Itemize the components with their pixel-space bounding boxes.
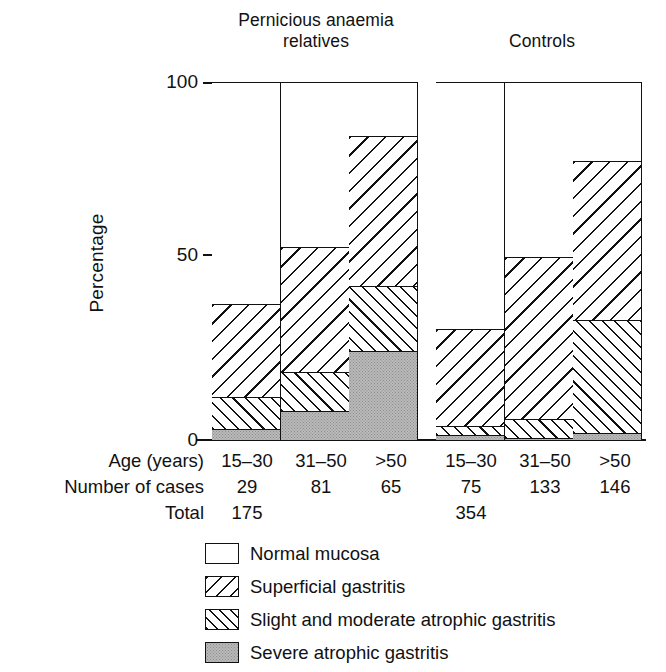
bar-group-pernicious-anaemia-relatives (213, 82, 418, 440)
group-title-line-1: Pernicious anaemia (196, 10, 436, 31)
chart-data-table: Age (years) 15–30 31–50 >50 15–30 31–50 … (0, 448, 666, 526)
bar-segment-severe-atrophic-gastritis (436, 435, 504, 440)
bar-group-controls (437, 82, 642, 440)
legend-item-superficial-gastritis: Superficial gastritis (205, 570, 555, 603)
age-cell-5: >50 (575, 448, 655, 474)
age-cell-2: >50 (351, 448, 431, 474)
cases-cell-5: 146 (575, 474, 655, 500)
table-row-total: Total 175 354 (0, 500, 666, 526)
y-tick-label-100: 100 (138, 72, 198, 91)
table-row-label-number-of-cases: Number of cases (64, 474, 204, 500)
bar-segment-superficial-gastritis (436, 329, 504, 426)
bar-ctrl-2 (574, 82, 642, 440)
bar-segment-slight-and-moderate-atrophic-gastritis (573, 320, 641, 433)
table-row-age: Age (years) 15–30 31–50 >50 15–30 31–50 … (0, 448, 666, 474)
group-title-controls: Controls (452, 31, 632, 52)
bar-ctrl-0 (437, 82, 505, 440)
legend-item-normal-mucosa: Normal mucosa (205, 537, 555, 570)
total-cell-0: 175 (207, 500, 287, 526)
age-cell-0: 15–30 (207, 448, 287, 474)
bar-pa-1 (282, 82, 350, 440)
age-cell-1: 31–50 (281, 448, 361, 474)
cases-cell-2: 65 (351, 474, 431, 500)
cases-cell-4: 133 (505, 474, 585, 500)
forwardslash-hatch-swatch-icon (205, 609, 239, 630)
bar-segment-normal-mucosa (436, 82, 504, 329)
bar-segment-superficial-gastritis (505, 257, 573, 418)
age-cell-3: 15–30 (431, 448, 511, 474)
legend-label-normal-mucosa: Normal mucosa (250, 543, 380, 565)
bar-segment-normal-mucosa (505, 82, 573, 257)
bar-segment-superficial-gastritis (349, 136, 417, 286)
bar-segment-superficial-gastritis (573, 161, 641, 320)
bar-segment-severe-atrophic-gastritis (281, 411, 349, 440)
chart-legend: Normal mucosa Superficial gastritis Slig… (205, 537, 555, 669)
legend-item-severe-atrophic-gastritis: Severe atrophic gastritis (205, 636, 555, 669)
bar-ctrl-1 (506, 82, 574, 440)
bar-segment-slight-and-moderate-atrophic-gastritis (281, 372, 349, 411)
group-title-pernicious-anaemia-relatives: Pernicious anaemia relatives (196, 10, 436, 52)
bar-pa-0 (213, 82, 281, 440)
y-tick-label-0: 0 (138, 430, 198, 449)
bar-segment-normal-mucosa (573, 82, 641, 161)
backslash-hatch-swatch-icon (205, 576, 239, 597)
legend-item-slight-and-moderate-atrophic-gastritis: Slight and moderate atrophic gastritis (205, 603, 555, 636)
stipple-grey-swatch-icon (205, 642, 239, 663)
bar-segment-severe-atrophic-gastritis (349, 351, 417, 441)
bar-segment-severe-atrophic-gastritis (505, 438, 573, 440)
bar-segment-normal-mucosa (281, 82, 349, 247)
bar-segment-normal-mucosa (212, 82, 280, 304)
bar-segment-slight-and-moderate-atrophic-gastritis (505, 419, 573, 439)
legend-label-severe-atrophic-gastritis: Severe atrophic gastritis (250, 642, 448, 664)
bar-pa-2 (350, 82, 418, 440)
bar-segment-superficial-gastritis (212, 304, 280, 397)
table-row-label-total: Total (165, 500, 204, 526)
legend-label-slight-and-moderate-atrophic-gastritis: Slight and moderate atrophic gastritis (250, 609, 555, 631)
cases-cell-3: 75 (431, 474, 511, 500)
table-row-label-age: Age (years) (108, 448, 204, 474)
group-title-line-2: relatives (196, 31, 436, 52)
cases-cell-1: 81 (281, 474, 361, 500)
bar-segment-superficial-gastritis (281, 247, 349, 372)
y-axis-title: Percentage (86, 163, 108, 363)
bar-segment-severe-atrophic-gastritis (573, 433, 641, 440)
legend-label-superficial-gastritis: Superficial gastritis (250, 576, 405, 598)
bar-segment-slight-and-moderate-atrophic-gastritis (349, 286, 417, 350)
y-tick-label-50: 50 (138, 245, 198, 264)
blank-swatch-icon (205, 543, 239, 564)
bar-segment-normal-mucosa (349, 82, 417, 136)
table-row-number-of-cases: Number of cases 29 81 65 75 133 146 (0, 474, 666, 500)
bar-segment-severe-atrophic-gastritis (212, 429, 280, 440)
total-cell-1: 354 (431, 500, 511, 526)
cases-cell-0: 29 (207, 474, 287, 500)
bar-segment-slight-and-moderate-atrophic-gastritis (212, 397, 280, 429)
age-cell-4: 31–50 (505, 448, 585, 474)
bar-segment-slight-and-moderate-atrophic-gastritis (436, 426, 504, 435)
